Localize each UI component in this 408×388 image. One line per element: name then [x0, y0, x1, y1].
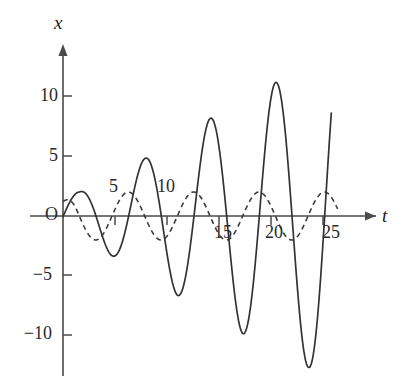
chart-figure: x t 10 5 O −5 −10 5 10 15 20 25	[0, 0, 408, 388]
y-axis-arrowhead	[59, 44, 68, 56]
y-tick-label-neg10: −10	[8, 323, 52, 344]
x-axis-label: t	[382, 205, 387, 227]
x-tick-label-25: 25	[322, 222, 340, 243]
y-tick-label-neg5: −5	[8, 264, 52, 285]
origin-label: O	[14, 204, 58, 225]
x-tick-label-15: 15	[214, 222, 232, 243]
x-tick-label-10: 10	[157, 176, 175, 197]
x-tick-label-5: 5	[109, 176, 118, 197]
y-axis-label: x	[54, 12, 62, 34]
y-tick-label-10: 10	[14, 85, 58, 106]
y-tick-label-5: 5	[14, 145, 58, 166]
x-axis-arrowhead	[365, 212, 376, 221]
plot-canvas	[0, 0, 408, 388]
x-tick-label-20: 20	[265, 222, 283, 243]
axes-group	[30, 44, 376, 376]
series-resonant-solution-curve	[63, 82, 331, 367]
